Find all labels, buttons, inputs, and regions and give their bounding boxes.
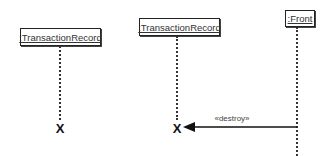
arrowhead-icon bbox=[183, 122, 195, 132]
destroy-message-label: «destroy» bbox=[214, 114, 249, 123]
destroy-message-arrow bbox=[0, 0, 330, 156]
